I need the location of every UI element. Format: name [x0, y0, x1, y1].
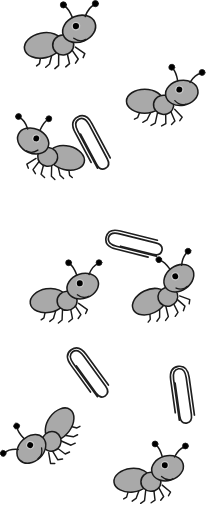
ant-figure[interactable]: ant [20, 7, 106, 77]
paperclip-figure[interactable]: paperclip [164, 363, 200, 431]
ant-figure[interactable]: ant [121, 253, 214, 335]
ant-label: ant [84, 187, 85, 188]
paperclip-figure[interactable]: paperclip [59, 341, 119, 409]
ant-figure[interactable]: ant [4, 391, 94, 488]
visual-search-canvas: Visual search array: cartoon ants and pa… [0, 0, 218, 519]
ant-figure[interactable]: ant [27, 266, 107, 329]
ant-figure[interactable]: ant [111, 447, 191, 510]
ant-figure[interactable]: ant [121, 66, 208, 138]
paperclip-figure[interactable]: paperclip [101, 224, 170, 266]
